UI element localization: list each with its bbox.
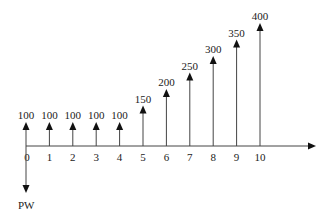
cash-flow-value-label: 250 <box>182 60 199 72</box>
period-tick-label: 4 <box>117 151 123 163</box>
cash-flow-diagram: 100100100100100150200250300350400 012345… <box>0 0 333 220</box>
cash-flow-value-label: 200 <box>158 76 175 88</box>
cash-flow-value-label: 300 <box>205 43 222 55</box>
cash-flow-value-label: 100 <box>111 109 128 121</box>
cash-flow-value-label: 100 <box>88 109 105 121</box>
period-tick-label: 3 <box>93 151 99 163</box>
cash-flow-value-label: 100 <box>41 109 58 121</box>
pw-label: PW <box>18 199 35 211</box>
period-tick-label: 9 <box>234 151 240 163</box>
cash-flow-value-label: 400 <box>252 10 269 22</box>
period-tick-label: 1 <box>47 151 53 163</box>
period-tick-label: 2 <box>70 151 76 163</box>
period-tick-label: 8 <box>210 151 216 163</box>
cash-flow-value-label: 150 <box>135 93 152 105</box>
cash-flow-arrowhead <box>163 89 170 97</box>
cash-flow-value-label: 100 <box>18 109 35 121</box>
cash-flow-arrowhead <box>257 23 264 31</box>
cash-flow-arrowhead <box>93 122 100 130</box>
pw-arrowhead <box>23 185 30 193</box>
cash-flow-arrowhead <box>116 122 123 130</box>
cash-flow-arrowhead <box>23 122 30 130</box>
cash-flow-value-label: 100 <box>65 109 82 121</box>
period-tick-label: 0 <box>24 151 30 163</box>
period-tick-label: 6 <box>164 151 170 163</box>
cash-flow-arrowhead <box>233 40 240 48</box>
cash-flow-arrowhead <box>210 56 217 64</box>
period-tick-label: 5 <box>140 151 146 163</box>
cash-flow-arrowhead <box>140 106 147 114</box>
period-tick-label: 10 <box>255 151 267 163</box>
time-axis-arrowhead <box>308 143 316 150</box>
period-tick-label: 7 <box>187 151 193 163</box>
cash-flow-arrowhead <box>186 73 193 81</box>
cash-flow-arrowhead <box>69 122 76 130</box>
cash-flow-value-label: 350 <box>228 27 245 39</box>
cash-flow-arrowhead <box>46 122 53 130</box>
